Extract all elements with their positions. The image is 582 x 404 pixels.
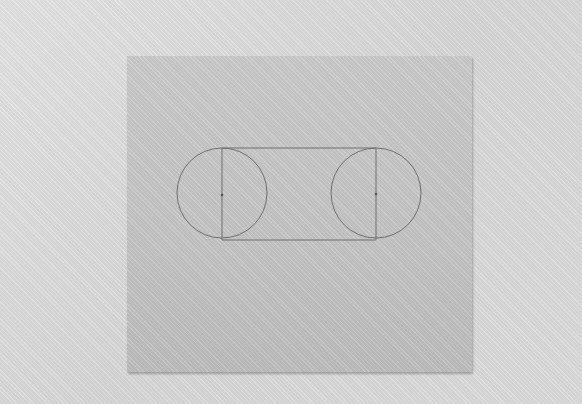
right-center-dot (375, 193, 378, 196)
photo (0, 0, 582, 404)
pencil-drawing (0, 0, 582, 404)
left-center-dot (221, 194, 224, 197)
